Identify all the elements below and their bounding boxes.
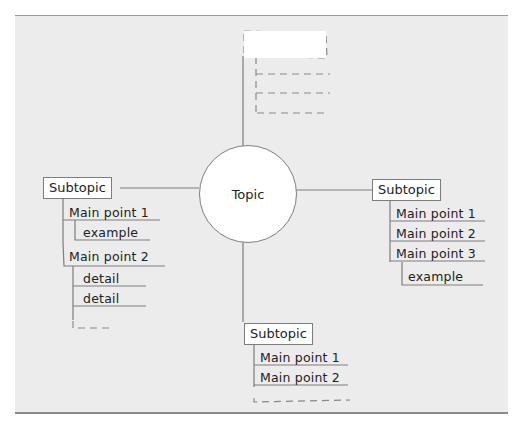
bottom-main-point-1[interactable]: Main point 1 (260, 350, 340, 366)
left-detail-2[interactable]: detail (83, 291, 119, 307)
right-example-1[interactable]: example (408, 269, 463, 285)
left-detail-1[interactable]: detail (83, 271, 119, 287)
left-subtopic-node[interactable]: Subtopic (43, 177, 112, 199)
left-main-point-1[interactable]: Main point 1 (69, 205, 149, 221)
central-topic-node[interactable]: Topic (199, 145, 297, 243)
left-example-1[interactable]: example (83, 225, 138, 241)
bottom-subtopic-node[interactable]: Subtopic (244, 323, 313, 345)
right-subtopic-node[interactable]: Subtopic (372, 179, 441, 201)
empty-subtopic-placeholder[interactable] (244, 31, 326, 58)
right-main-point-2[interactable]: Main point 2 (396, 226, 476, 242)
right-main-point-1[interactable]: Main point 1 (396, 206, 476, 222)
right-main-point-3[interactable]: Main point 3 (396, 246, 476, 262)
central-topic-label: Topic (232, 187, 265, 202)
bottom-main-point-2[interactable]: Main point 2 (260, 370, 340, 386)
left-main-point-2[interactable]: Main point 2 (69, 249, 149, 265)
